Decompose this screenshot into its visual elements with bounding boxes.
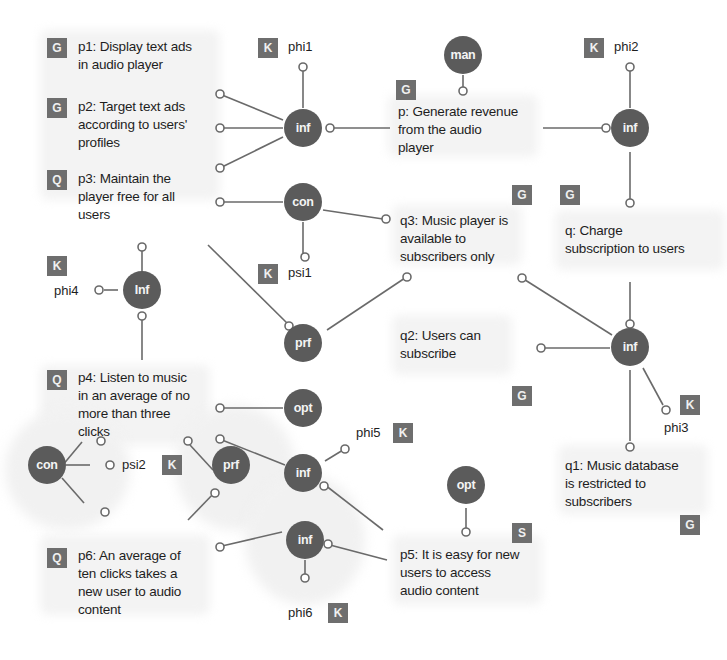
goal-badge: G <box>560 185 580 205</box>
knowledge-phi2[interactable]: phi2 <box>614 39 639 54</box>
knowledge-phi4[interactable]: phi4 <box>54 283 79 298</box>
proposition-p[interactable]: p: Generate revenue from the audio playe… <box>398 103 518 157</box>
goal-badge: G <box>396 80 416 100</box>
proposition-p2[interactable]: p2: Target text ads according to users' … <box>78 98 187 152</box>
knowledge-psi2[interactable]: psi2 <box>122 457 146 472</box>
knowledge-badge: K <box>258 264 278 284</box>
relation-node-prf[interactable]: prf <box>284 324 322 362</box>
proposition-q2[interactable]: q2: Users can subscribe <box>400 327 481 363</box>
relation-node-con[interactable]: con <box>28 446 66 484</box>
relation-node-man[interactable]: man <box>444 36 482 74</box>
goal-badge: G <box>47 98 67 118</box>
proposition-q1[interactable]: q1: Music database is restricted to subs… <box>565 457 678 511</box>
relation-node-label: opt <box>457 478 476 492</box>
proposition-p6[interactable]: p6: An average of ten clicks takes a new… <box>78 547 181 619</box>
knowledge-badge: K <box>258 38 278 58</box>
knowledge-phi3[interactable]: phi3 <box>664 420 689 435</box>
goal-badge: G <box>680 515 700 535</box>
relation-node-con[interactable]: con <box>284 183 322 221</box>
goal-badge: G <box>47 38 67 58</box>
relation-node-inf[interactable]: inf <box>611 109 649 147</box>
knowledge-badge: K <box>328 603 348 623</box>
relation-node-label: opt <box>294 401 313 415</box>
proposition-p5[interactable]: p5: It is easy for new users to access a… <box>400 546 519 600</box>
relation-node-label: inf <box>623 340 637 354</box>
knowledge-badge: K <box>162 455 182 475</box>
relation-node-inf[interactable]: Inf <box>123 271 161 309</box>
softgoal-badge: S <box>512 523 532 543</box>
relation-node-label: con <box>292 195 313 209</box>
knowledge-badge: K <box>393 423 413 443</box>
relation-node-inf[interactable]: inf <box>284 454 322 492</box>
knowledge-phi5[interactable]: phi5 <box>356 425 381 440</box>
relation-node-label: Inf <box>135 283 149 297</box>
proposition-q3[interactable]: q3: Music player is available to subscri… <box>400 212 508 266</box>
knowledge-badge: K <box>47 256 67 276</box>
quality-badge: Q <box>47 170 67 190</box>
relation-node-opt[interactable]: opt <box>284 389 322 427</box>
goal-model-diagram: inf con prf opt inf inf Inf con prf man … <box>0 0 727 660</box>
relation-node-label: inf <box>296 121 310 135</box>
relation-node-label: prf <box>295 336 311 350</box>
knowledge-phi1[interactable]: phi1 <box>288 39 313 54</box>
goal-badge: G <box>512 185 532 205</box>
goal-badge: G <box>512 386 532 406</box>
proposition-p1[interactable]: p1: Display text ads in audio player <box>78 38 192 74</box>
quality-badge: Q <box>47 548 67 568</box>
proposition-p4[interactable]: p4: Listen to music in an average of no … <box>78 369 190 441</box>
relation-node-inf[interactable]: inf <box>286 521 324 559</box>
knowledge-badge: K <box>680 395 700 415</box>
relation-node-inf[interactable]: inf <box>284 109 322 147</box>
quality-badge: Q <box>47 370 67 390</box>
knowledge-phi6[interactable]: phi6 <box>288 605 313 620</box>
relation-node-label: inf <box>296 466 310 480</box>
relation-node-prf[interactable]: prf <box>212 446 250 484</box>
relation-node-label: inf <box>298 533 312 547</box>
relation-node-label: man <box>451 48 476 62</box>
relation-node-opt[interactable]: opt <box>447 466 485 504</box>
proposition-p3[interactable]: p3: Maintain the player free for all use… <box>78 170 175 224</box>
relation-node-label: inf <box>623 121 637 135</box>
relation-node-inf[interactable]: inf <box>611 328 649 366</box>
knowledge-badge: K <box>584 38 604 58</box>
proposition-q[interactable]: q: Charge subscription to users <box>565 222 685 258</box>
knowledge-psi1[interactable]: psi1 <box>288 265 312 280</box>
relation-node-label: con <box>36 458 57 472</box>
relation-node-label: prf <box>223 458 239 472</box>
